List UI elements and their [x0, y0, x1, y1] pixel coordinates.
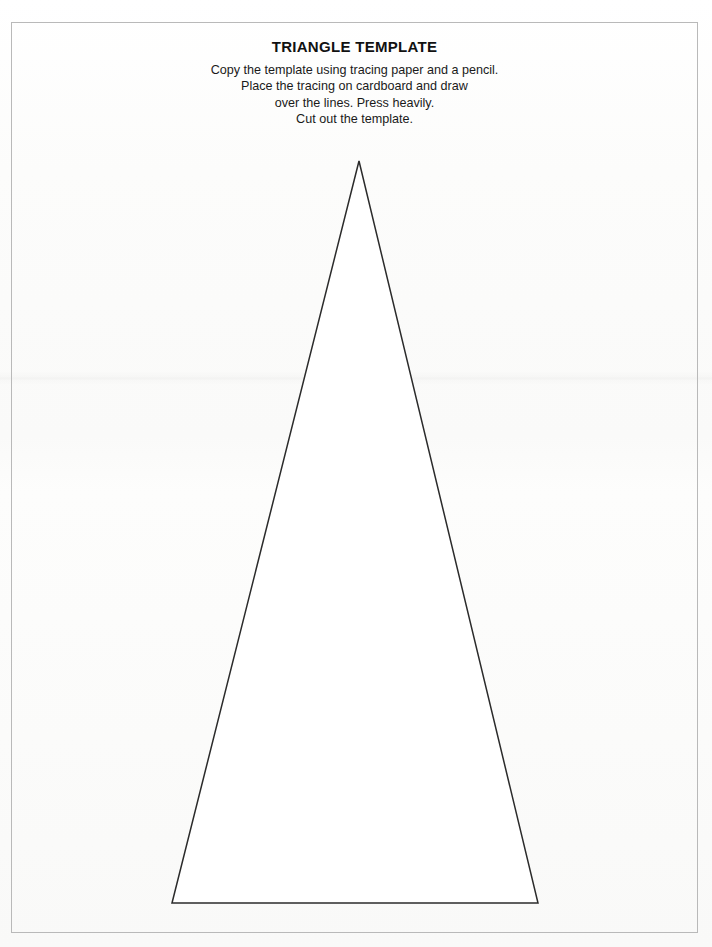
- page-content: TRIANGLE TEMPLATE Copy the template usin…: [11, 22, 698, 933]
- triangle-template-figure: [11, 22, 698, 933]
- page-sheet: TRIANGLE TEMPLATE Copy the template usin…: [0, 0, 712, 947]
- triangle-outline: [172, 161, 538, 903]
